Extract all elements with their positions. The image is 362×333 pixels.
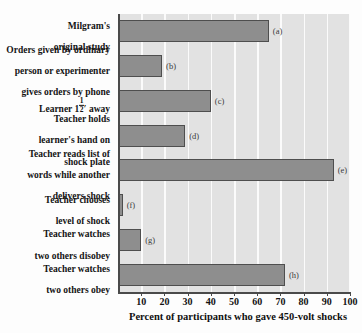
tick-label-50: 50 bbox=[229, 296, 239, 307]
bar-row: (c) bbox=[118, 84, 350, 119]
tick-label-70: 70 bbox=[275, 296, 285, 307]
bar-row: (a) bbox=[118, 14, 350, 49]
bar-row: (h) bbox=[118, 257, 350, 292]
bar-label-f: (f) bbox=[127, 200, 136, 210]
bar-e[interactable] bbox=[118, 159, 334, 181]
bar-row: (f) bbox=[118, 188, 350, 223]
bar-label-d: (d) bbox=[189, 131, 199, 141]
bar-row: (b) bbox=[118, 49, 350, 84]
tick-label-20: 20 bbox=[159, 296, 169, 307]
bar-chart: (a) (b) (c) (d) (e) (f) (g) (h) bbox=[0, 0, 362, 333]
tick-label-60: 60 bbox=[252, 296, 262, 307]
bar-row: (e) bbox=[118, 153, 350, 188]
category-label-b-line2: person or experimenter bbox=[15, 66, 110, 76]
bar-label-b: (b) bbox=[166, 61, 176, 71]
category-label-e-line2: words while another bbox=[27, 170, 110, 180]
bar-label-h: (h) bbox=[289, 270, 299, 280]
bar-h[interactable] bbox=[118, 264, 285, 286]
bar-row: (d) bbox=[118, 118, 350, 153]
bar-a[interactable] bbox=[118, 20, 269, 42]
category-label-f-line1: Teacher chooses bbox=[45, 195, 110, 205]
y-axis-line bbox=[118, 14, 120, 293]
x-axis-title: Percent of participants who gave 450-vol… bbox=[118, 311, 358, 322]
bar-label-c: (c) bbox=[215, 96, 224, 106]
category-label-g-line1: Teacher watches bbox=[43, 229, 110, 239]
bar-g[interactable] bbox=[118, 229, 141, 251]
tick-label-80: 80 bbox=[299, 296, 309, 307]
category-label-d-line1: Teacher holds bbox=[54, 114, 110, 124]
bar-label-a: (a) bbox=[273, 26, 282, 36]
bar-label-g: (g) bbox=[145, 235, 155, 245]
bar-d[interactable] bbox=[118, 125, 185, 147]
bar-row: (g) bbox=[118, 223, 350, 258]
bar-c[interactable] bbox=[118, 90, 211, 112]
bar-label-e: (e) bbox=[338, 165, 347, 175]
tick-label-10: 10 bbox=[136, 296, 146, 307]
category-label-h-line2: two others obey bbox=[46, 285, 110, 295]
category-label-b-line1: Orders given by ordinary bbox=[6, 45, 110, 55]
tick-label-40: 40 bbox=[206, 296, 216, 307]
category-axis-labels: Milgram's original study Orders given by… bbox=[0, 14, 114, 292]
tick-label-90: 90 bbox=[322, 296, 332, 307]
tick-label-30: 30 bbox=[183, 296, 193, 307]
category-label-e-line1: Teacher reads list of bbox=[29, 149, 110, 159]
tick-label-100: 100 bbox=[343, 296, 358, 307]
category-label-a-line1: Milgram's bbox=[68, 21, 110, 31]
category-label-h-line1: Teacher watches bbox=[43, 264, 110, 274]
plot-area: (a) (b) (c) (d) (e) (f) (g) (h) bbox=[118, 14, 350, 292]
category-label-h: Teacher watches two others obey bbox=[0, 253, 110, 295]
bar-b[interactable] bbox=[118, 55, 162, 77]
